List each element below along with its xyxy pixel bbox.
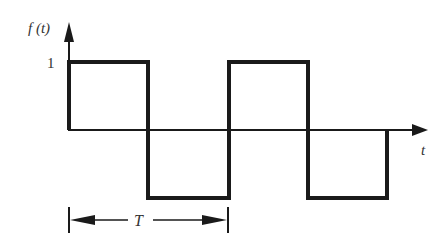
x-axis-label: t xyxy=(421,142,426,158)
f-axis-arrow-icon xyxy=(64,22,74,42)
period-arrow-right-icon xyxy=(202,215,227,225)
t-axis-arrow-icon xyxy=(412,124,428,136)
period-label: T xyxy=(134,212,144,229)
square-wave-diagram: f (t) 1 t T xyxy=(0,0,445,248)
y-axis-label: f (t) xyxy=(28,20,50,37)
amplitude-label: 1 xyxy=(47,55,55,71)
period-arrow-left-icon xyxy=(70,215,95,225)
